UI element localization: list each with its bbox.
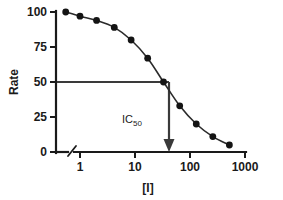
data-point (77, 13, 84, 20)
data-point (62, 9, 69, 16)
ic50-label-subscript: 50 (133, 119, 142, 128)
data-point (160, 79, 167, 86)
y-tick-label-75: 75 (34, 40, 48, 54)
y-tick-label-100: 100 (27, 5, 47, 19)
y-tick-label-0: 0 (40, 145, 47, 159)
y-axis: 100 75 50 25 0 Rate (7, 5, 56, 159)
data-point (93, 17, 100, 24)
chart-canvas: 100 75 50 25 0 Rate 1 10 100 1000 (0, 0, 283, 200)
y-tick-label-50: 50 (34, 75, 48, 89)
data-point (176, 102, 183, 109)
x-tick-label-1: 1 (77, 160, 84, 174)
data-point (128, 37, 135, 44)
ic50-dose-response-figure: 100 75 50 25 0 Rate 1 10 100 1000 (0, 0, 283, 200)
ic50-label-base: IC (122, 113, 133, 125)
data-point (193, 121, 200, 128)
x-axis-title: [I] (142, 181, 153, 195)
series-curve (66, 12, 230, 145)
x-axis: 1 10 100 1000 [I] (56, 146, 259, 195)
data-point (226, 142, 233, 149)
x-tick-label-100: 100 (180, 160, 200, 174)
y-tick-label-25: 25 (34, 110, 48, 124)
x-tick-label-1000: 1000 (232, 160, 259, 174)
series-markers (62, 9, 232, 149)
data-point (111, 24, 118, 31)
data-point (144, 55, 151, 62)
x-tick-label-10: 10 (128, 160, 142, 174)
y-axis-title: Rate (7, 69, 21, 95)
ic50-arrow-head-icon (164, 139, 175, 152)
ic50-label: IC50 (122, 113, 142, 128)
data-point (209, 133, 216, 140)
ic50-guide-annotation: IC50 (57, 82, 175, 152)
data-series-group (62, 9, 232, 149)
